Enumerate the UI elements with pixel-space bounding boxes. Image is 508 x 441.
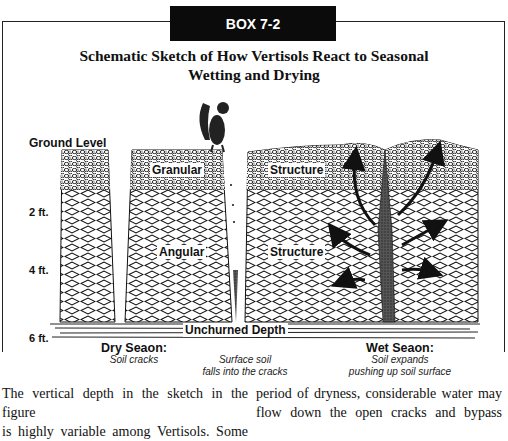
dry-season-sub: Soil cracks [84, 354, 184, 366]
body-left-line-2: is highly variable among Vertisols. Some [2, 422, 248, 441]
dry-season-heading: Dry Seaon: [84, 341, 184, 355]
middle-caption: Surface soil falls into the cracks [190, 354, 300, 378]
depth-6ft-label: 6 ft. [29, 332, 49, 344]
granular-tag: Granular [150, 163, 204, 177]
depth-4ft-label: 4 ft. [29, 264, 49, 276]
wet-season-sub: Soil expands pushing up soil surface [330, 354, 470, 378]
structure-mid-tag: Structure [268, 245, 325, 259]
body-right-line-2: flow down the open cracks and bypass [256, 403, 502, 422]
middle-caption-line-2: falls into the cracks [190, 366, 300, 378]
unchurned-tag: Unchurned Depth [183, 323, 288, 337]
wet-season-heading: Wet Seaon: [340, 341, 460, 355]
body-left-line-1: The vertical depth in the sketch in the … [2, 384, 248, 422]
wet-caption-line-1: Soil expands [330, 354, 470, 366]
squirrel-icon [199, 102, 229, 152]
depth-2ft-label: 2 ft. [29, 206, 49, 218]
body-right-line-1: period of dryness, considerable water ma… [256, 384, 502, 403]
angular-tag: Angular [157, 245, 206, 259]
body-left-column: The vertical depth in the sketch in the … [2, 384, 248, 441]
body-right-column: period of dryness, considerable water ma… [256, 384, 502, 422]
ground-level-label: Ground Level [29, 136, 106, 150]
wet-caption-line-2: pushing up soil surface [330, 366, 470, 378]
structure-top-tag: Structure [268, 163, 325, 177]
middle-caption-line-1: Surface soil [190, 354, 300, 366]
